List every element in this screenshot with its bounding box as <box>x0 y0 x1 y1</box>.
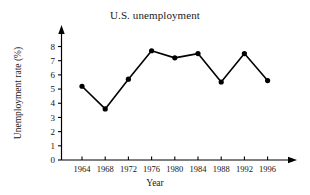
y-tick-label-0: 0 <box>51 155 56 165</box>
data-point-1964 <box>79 84 84 89</box>
y-tick-group: 012345678 <box>51 42 62 165</box>
x-tick-label-6: 1988 <box>213 164 230 174</box>
y-tick-label-6: 6 <box>51 70 56 80</box>
x-tick-label-5: 1984 <box>190 164 208 174</box>
y-tick-label-4: 4 <box>51 98 56 108</box>
x-tick-label-2: 1972 <box>120 164 137 174</box>
y-tick-label-3: 3 <box>51 113 56 123</box>
x-tick-label-7: 1992 <box>236 164 253 174</box>
y-tick-label-1: 1 <box>51 141 56 151</box>
data-point-1980 <box>172 55 177 60</box>
data-point-1984 <box>195 51 200 56</box>
x-tick-group: 196419681972197619801984198819921996 <box>74 157 277 174</box>
x-axis-arrow-icon <box>288 157 297 163</box>
data-point-1976 <box>149 48 154 53</box>
y-tick-label-5: 5 <box>51 84 56 94</box>
data-point-1992 <box>242 51 247 56</box>
axis-group <box>58 25 297 163</box>
y-tick-label-7: 7 <box>51 56 56 66</box>
y-tick-label-8: 8 <box>51 42 56 52</box>
x-tick-label-4: 1980 <box>166 164 183 174</box>
data-point-1972 <box>126 77 131 82</box>
x-tick-label-1: 1968 <box>97 164 114 174</box>
x-tick-label-8: 1996 <box>259 164 276 174</box>
y-axis-arrow-icon <box>58 25 64 34</box>
data-point-1988 <box>219 79 224 84</box>
data-point-1968 <box>103 106 108 111</box>
chart-figure: U.S. unemployment Unemployment rate (%) … <box>0 0 310 195</box>
y-tick-label-2: 2 <box>51 127 56 137</box>
data-point-1996 <box>265 78 270 83</box>
x-tick-label-3: 1976 <box>143 164 160 174</box>
plot-area: 012345678 196419681972197619801984198819… <box>0 0 310 195</box>
x-tick-label-0: 1964 <box>74 164 92 174</box>
